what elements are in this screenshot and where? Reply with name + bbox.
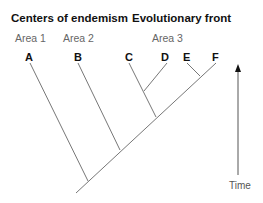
branch-b [78, 63, 120, 150]
main-trunk-branch [76, 63, 216, 193]
branch-d [144, 63, 167, 91]
branch-a [30, 63, 88, 181]
cladogram-lines [0, 0, 263, 203]
branch-c [129, 63, 156, 117]
branch-e [187, 63, 200, 76]
time-arrow-icon [235, 64, 241, 175]
time-axis-label: Time [229, 180, 251, 191]
cladogram-diagram: Centers of endemism Evolutionary front A… [0, 0, 263, 203]
